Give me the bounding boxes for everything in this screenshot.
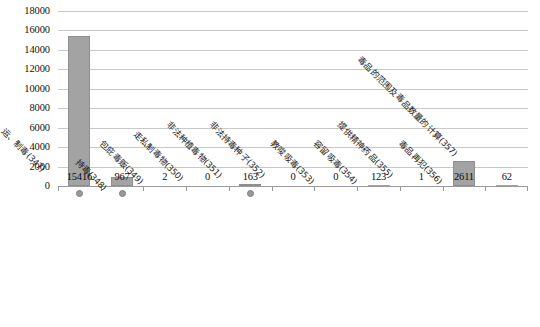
x-label-slot: 教唆吸毒(353) bbox=[314, 200, 357, 327]
bar-value-label: 1 bbox=[419, 172, 424, 182]
series-marker-dot bbox=[76, 190, 83, 197]
x-label-slot: 非法种植毒物(351) bbox=[229, 200, 272, 327]
bar-value-label: 967 bbox=[115, 172, 130, 182]
bar-value-label: 0 bbox=[333, 172, 338, 182]
bar-value-label: 62 bbox=[502, 172, 512, 182]
y-axis-tick-label: 0 bbox=[0, 181, 50, 191]
bar-value-label: 0 bbox=[291, 172, 296, 182]
x-label-slot: 走私制毒物(350) bbox=[186, 200, 229, 327]
x-label-slot: 非法持毒种子(352) bbox=[272, 200, 315, 327]
x-label-slot: 提供精神药品(355) bbox=[400, 200, 443, 327]
y-axis-tick-label: 16000 bbox=[0, 25, 50, 35]
bar-value-label: 2611 bbox=[454, 172, 474, 182]
x-label-slot: 毒品再犯(356) bbox=[443, 200, 486, 327]
y-axis-tick-label: 12000 bbox=[0, 64, 50, 74]
bar-value-label: 163 bbox=[243, 172, 258, 182]
x-label-slot: 毒品的范围及毒品数量的计算(357) bbox=[485, 200, 528, 327]
series-marker-dot bbox=[247, 190, 254, 197]
x-label-slot: 走、贩、运、制毒(347) bbox=[58, 200, 101, 327]
bar-value-label: 15416 bbox=[67, 172, 92, 182]
x-axis-category-labels: 走、贩、运、制毒(347)持毒(348)包庇毒贩(349)走私制毒物(350)非… bbox=[58, 200, 528, 327]
bar-value-label: 123 bbox=[371, 172, 386, 182]
bar-chart: 1541696720163001231261162 18000160001400… bbox=[0, 0, 540, 327]
x-label-slot: 持毒(348) bbox=[101, 200, 144, 327]
series-marker-dot bbox=[119, 190, 126, 197]
bar-value-label: 0 bbox=[205, 172, 210, 182]
y-axis-tick-label: 8000 bbox=[0, 103, 50, 113]
bar-slot: 62 bbox=[485, 11, 528, 186]
y-axis-tick-label: 10000 bbox=[0, 84, 50, 94]
y-axis-tick-label: 14000 bbox=[0, 45, 50, 55]
bar-value-label: 2 bbox=[162, 172, 167, 182]
x-label-slot: 容留吸毒(354) bbox=[357, 200, 400, 327]
x-label-slot: 包庇毒贩(349) bbox=[143, 200, 186, 327]
y-axis-tick-label: 18000 bbox=[0, 6, 50, 16]
